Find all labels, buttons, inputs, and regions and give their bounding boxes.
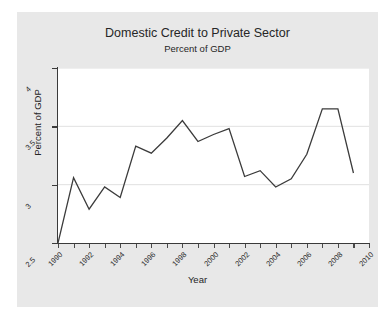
x-axis-tick (369, 244, 370, 248)
x-axis-tick (214, 244, 215, 248)
x-axis-tick (245, 244, 246, 248)
plot-area (58, 68, 369, 243)
chart-title: Domestic Credit to Private Sector (17, 26, 378, 40)
gridlines (58, 68, 369, 243)
data-series-line (58, 109, 353, 243)
x-axis-tick (198, 244, 199, 248)
x-axis-tick (105, 244, 106, 248)
x-axis-tick-label: 2008 (320, 250, 345, 275)
x-axis-tick (307, 244, 308, 248)
x-axis-tick (120, 244, 121, 248)
x-axis-tick (338, 244, 339, 248)
x-axis-tick (167, 244, 168, 248)
x-axis-tick (151, 244, 152, 248)
y-axis-tick (52, 68, 57, 69)
x-axis-tick-label: 1996 (133, 250, 158, 275)
y-axis-tick (52, 185, 57, 186)
chart-subtitle: Percent of GDP (17, 43, 378, 54)
x-axis-tick-label: 2004 (257, 250, 282, 275)
x-axis-tick (291, 244, 292, 248)
x-axis-tick (260, 244, 261, 248)
x-axis-tick (58, 244, 59, 248)
x-axis-tick (89, 244, 90, 248)
x-axis-tick (229, 244, 230, 248)
figure-background: Domestic Credit to Private Sector Percen… (17, 12, 378, 307)
line-chart-svg (58, 68, 369, 243)
y-axis-line (57, 67, 58, 244)
x-axis-tick (74, 244, 75, 248)
x-axis-tick-label: 1998 (164, 250, 189, 275)
x-axis-tick (182, 244, 183, 248)
x-axis-tick-label: 1992 (71, 250, 96, 275)
x-axis-tick (322, 244, 323, 248)
y-axis-tick-label: 3 (23, 181, 53, 211)
x-axis-tick-label: 2010 (351, 250, 376, 275)
x-axis-label: Year (17, 274, 378, 285)
x-axis-tick (136, 244, 137, 248)
y-axis-label: Percent of GDP (32, 73, 43, 173)
y-axis-tick (52, 243, 57, 244)
x-axis-tick-label: 2002 (226, 250, 251, 275)
x-axis-tick (276, 244, 277, 248)
x-axis-tick-label: 2006 (288, 250, 313, 275)
x-axis-tick-label: 2000 (195, 250, 220, 275)
x-axis-tick (353, 244, 354, 248)
x-axis-tick-label: 1994 (102, 250, 127, 275)
